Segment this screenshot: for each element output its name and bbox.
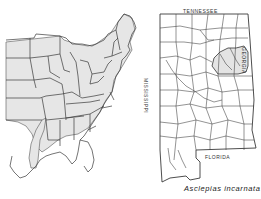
- label-georgia: GEORGIA: [241, 47, 247, 74]
- figure-caption: Asclepias incarnata: [184, 184, 260, 193]
- us-shaded-range: [6, 14, 135, 152]
- label-florida: FLORIDA: [205, 154, 230, 160]
- distribution-map-figure: TENNESSEE FLORIDA MISSISSIPPI GEORGIA As…: [0, 0, 261, 199]
- map-graphic: [0, 0, 261, 199]
- label-mississippi: MISSISSIPPI: [143, 78, 149, 113]
- us-map: [6, 14, 136, 178]
- label-tennessee: TENNESSEE: [183, 8, 218, 14]
